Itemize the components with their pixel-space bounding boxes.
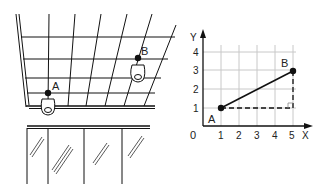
x-tick-5: 5: [289, 130, 295, 141]
right-angle-marker: [288, 103, 293, 108]
x-tick-4: 4: [272, 130, 278, 141]
scene-label-a: A: [52, 80, 60, 92]
coordinate-graph: A B Y X 0 4 3 2 1 1 2 3 4 5: [190, 29, 313, 141]
tile-line: [105, 14, 127, 106]
x-axis-arrow-icon: [304, 123, 313, 129]
y-axis-label: Y: [190, 32, 197, 43]
x-tick-1: 1: [218, 130, 224, 141]
scene-label-b: B: [141, 45, 148, 57]
y-tick-3: 3: [193, 65, 199, 76]
diagram-canvas: A B A: [0, 0, 326, 190]
x-axis-label: X: [302, 130, 309, 141]
lamp-a: [41, 99, 55, 115]
x-tick-3: 3: [254, 130, 260, 141]
lamp-b: [131, 65, 145, 82]
tile-line: [68, 14, 75, 106]
y-axis-arrow-icon: [200, 29, 206, 38]
y-tick-2: 2: [193, 84, 199, 95]
origin-label: 0: [190, 129, 196, 141]
glass-reflection: [30, 136, 144, 174]
y-tick-4: 4: [193, 47, 199, 58]
y-tick-1: 1: [193, 103, 199, 114]
graph-label-a: A: [208, 113, 216, 125]
wall-scene: [16, 14, 176, 184]
x-tick-2: 2: [236, 130, 242, 141]
graph-point-a: [218, 105, 224, 111]
graph-point-b: [290, 68, 296, 74]
point-a: [45, 90, 51, 96]
graph-label-b: B: [281, 57, 288, 69]
tile-line: [86, 14, 101, 106]
